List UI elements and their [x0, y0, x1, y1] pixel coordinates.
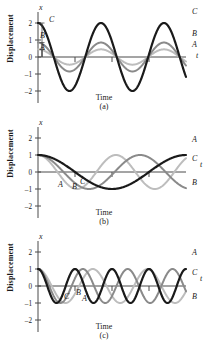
- curve-label-inner-c: C: [64, 292, 70, 301]
- curve-label-inner-b: B: [76, 288, 81, 297]
- curve-label-right-a: A: [191, 40, 197, 49]
- panel-a-caption: (a): [84, 102, 124, 111]
- curve-label-inner-a: A: [39, 43, 45, 52]
- panel-c-y-axis-title: Displacement: [6, 240, 15, 296]
- y-tick-label: –1: [24, 186, 33, 194]
- y-tick-label: –2: [24, 203, 33, 211]
- y-tick-label: 1: [28, 37, 32, 45]
- wave-superposition-figure: 210–1–2xCBACBAt Displacement Time (a) 21…: [0, 0, 209, 344]
- panel-b: 210–1–2xABCACtB Displacement Time (b): [0, 115, 209, 230]
- curve-label-right-c: C: [192, 268, 198, 277]
- panel-c-caption: (c): [84, 331, 124, 340]
- curve-label-inner-c: C: [49, 15, 55, 24]
- curve-label-inner-c: C: [80, 177, 86, 186]
- curve-label-right-b: B: [192, 292, 197, 301]
- curve-label-right-t: t: [196, 51, 199, 60]
- y-tick-label: 2: [28, 135, 32, 143]
- panel-a-x-axis-title: Time: [84, 93, 124, 102]
- y-axis-symbol: x: [38, 118, 43, 127]
- curve-label-right-b: B: [192, 29, 197, 38]
- panel-a: 210–1–2xCBACBAt Displacement Time (a): [0, 0, 209, 115]
- curve-label-inner-a: A: [81, 294, 87, 303]
- y-tick-label: 0: [28, 54, 32, 62]
- curve-label-right-a: A: [191, 248, 197, 257]
- panel-b-x-axis-title: Time: [84, 208, 124, 217]
- curve-label-right-c: C: [192, 7, 198, 16]
- curve-label-right-t: t: [200, 274, 203, 283]
- y-tick-label: 2: [28, 249, 32, 257]
- y-tick-label: 1: [28, 152, 32, 160]
- curve-label-right-b: B: [192, 178, 197, 187]
- y-axis-symbol: x: [38, 232, 43, 241]
- y-tick-label: –1: [24, 71, 33, 79]
- panel-b-caption: (b): [84, 217, 124, 226]
- panel-c-x-axis-title: Time: [84, 322, 124, 331]
- y-tick-label: –2: [24, 317, 33, 325]
- y-tick-label: 2: [28, 20, 32, 28]
- curve-label-right-c: C: [192, 154, 198, 163]
- y-tick-label: –2: [24, 88, 33, 96]
- curve-label-right-a: A: [191, 135, 197, 144]
- y-tick-label: 1: [28, 266, 32, 274]
- panel-b-y-axis-title: Displacement: [6, 126, 15, 182]
- y-axis-symbol: x: [38, 3, 43, 12]
- curve-label-inner-b: B: [72, 182, 77, 191]
- y-tick-label: 0: [28, 169, 32, 177]
- y-tick-label: –1: [24, 300, 33, 308]
- panel-c: 210–1–2xCBAACtB Displacement Time (c): [0, 229, 209, 344]
- y-tick-label: 0: [28, 283, 32, 291]
- curve-label-inner-a: A: [57, 180, 63, 189]
- curve-label-inner-b: B: [40, 31, 45, 40]
- curve-label-right-t: t: [200, 160, 203, 169]
- panel-a-y-axis-title: Displacement: [6, 11, 15, 67]
